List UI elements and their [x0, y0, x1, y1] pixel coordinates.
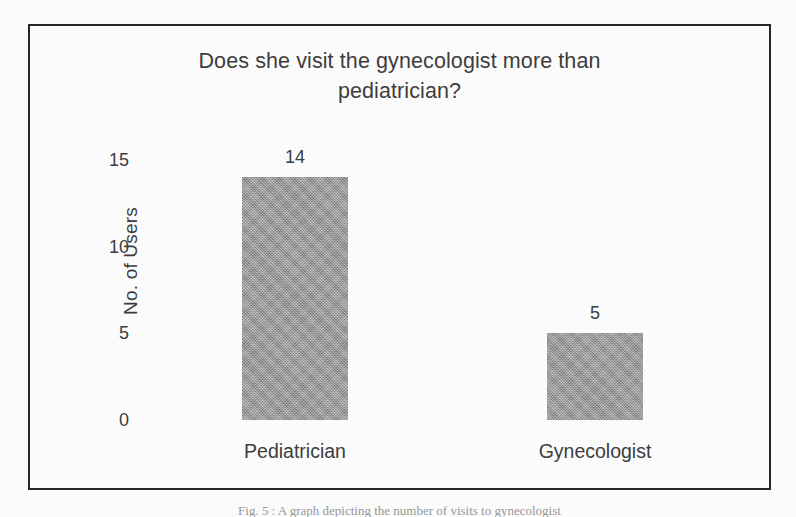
bar-pediatrician[interactable]: 14 Pediatrician: [242, 177, 348, 420]
bar-gynecologist[interactable]: 5 Gynecologist: [547, 333, 643, 420]
bar-value-pediatrician: 14: [285, 147, 305, 168]
y-tick-label-0: 0: [119, 410, 129, 431]
x-tick-label-pediatrician: Pediatrician: [244, 440, 346, 463]
figure-caption: Fig. 5 : A graph depicting the number of…: [28, 503, 771, 517]
x-tick-label-gynecologist: Gynecologist: [539, 440, 652, 463]
chart-title: Does she visit the gynecologist more tha…: [28, 46, 771, 106]
y-tick-label-10: 10: [109, 236, 129, 257]
bar-value-gynecologist: 5: [590, 303, 600, 324]
y-tick-label-15: 15: [109, 150, 129, 171]
y-tick-label-5: 5: [119, 323, 129, 344]
y-axis-title: No. of Users: [120, 181, 142, 341]
plot-area: No. of Users 15 10 5 0 14 Pediatrician 5…: [140, 160, 730, 420]
